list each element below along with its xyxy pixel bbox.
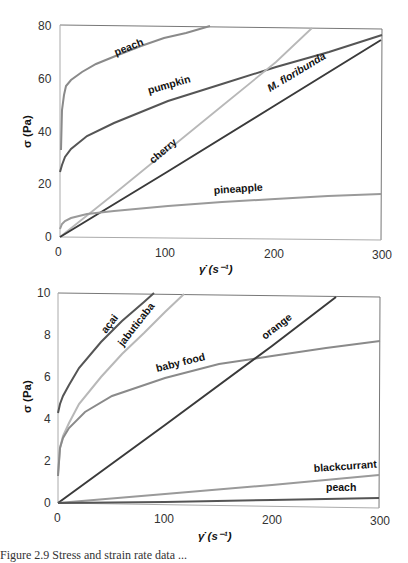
figure: peach pumpkin cherry M. floribunda pinea… [0, 0, 408, 563]
bottom-y-tick-0: 0 [44, 496, 51, 510]
series-baby-food [58, 341, 380, 476]
bottom-y-tick-10: 10 [37, 286, 51, 300]
bottom-y-axis-label: σ (Pa) [21, 380, 33, 413]
bottom-y-tick-8: 8 [44, 328, 51, 342]
label-pumpkin: pumpkin [146, 72, 191, 96]
label-peach-bottom: peach [326, 481, 356, 493]
label-blackcurrant: blackcurrant [313, 458, 377, 474]
bottom-x-axis-label: γ̇ (s⁻¹) [198, 530, 232, 542]
top-y-tick-60: 60 [38, 72, 52, 86]
series-pumpkin [60, 35, 382, 172]
bottom-chart: açai jabuticaba baby food orange blackcu… [21, 286, 390, 542]
label-peach-top: peach [112, 35, 145, 57]
label-acai: açai [98, 312, 120, 336]
label-cherry: cherry [147, 136, 179, 166]
top-x-axis-label: γ̇ (s⁻¹) [199, 263, 233, 275]
top-x-tick-100: 100 [155, 246, 175, 260]
label-orange: orange [259, 310, 294, 341]
top-y-tick-40: 40 [38, 125, 52, 139]
bottom-y-tick-4: 4 [44, 412, 51, 426]
bottom-y-tick-2: 2 [44, 454, 51, 468]
top-y-axis-label: σ (Pa) [21, 115, 33, 148]
top-y-tick-0: 0 [45, 230, 52, 244]
bottom-y-tick-6: 6 [44, 370, 51, 384]
top-x-tick-0: 0 [55, 245, 62, 259]
bottom-x-tick-200: 200 [262, 513, 282, 527]
top-x-tick-300: 300 [372, 248, 392, 262]
bottom-x-tick-300: 300 [370, 514, 390, 528]
top-x-tick-200: 200 [264, 247, 284, 261]
label-baby-food: baby food [155, 350, 207, 374]
series-m-floribunda [60, 40, 381, 237]
label-pineapple: pineapple [213, 181, 263, 196]
top-chart: peach pumpkin cherry M. floribunda pinea… [21, 19, 392, 275]
bottom-x-tick-100: 100 [154, 512, 174, 526]
top-y-tick-20: 20 [38, 177, 52, 191]
bottom-x-tick-0: 0 [54, 511, 61, 525]
label-m-floribunda: M. floribunda [265, 49, 328, 93]
top-y-tick-80: 80 [38, 19, 52, 33]
figure-caption: Figure 2.9 Stress and strain rate data .… [0, 548, 408, 563]
